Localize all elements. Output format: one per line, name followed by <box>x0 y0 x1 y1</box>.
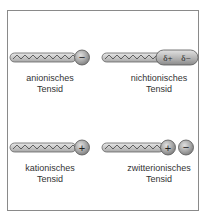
svg-text:δ+: δ+ <box>163 53 172 63</box>
label-cationic: kationisches Tensid <box>2 163 98 184</box>
svg-text:δ−: δ− <box>181 53 190 63</box>
cationic-surfactant-molecule: + <box>0 90 100 170</box>
anionic-surfactant-molecule: − <box>0 0 100 80</box>
zwitterionic-surfactant-molecule: + − <box>97 90 207 170</box>
label-line: Tensid <box>2 174 98 185</box>
label-line: anionisches <box>2 73 98 84</box>
label-line: Tensid <box>111 174 207 185</box>
label-line: nichtionisches <box>111 73 207 84</box>
label-line: kationisches <box>2 163 98 174</box>
label-zwitterionic: zwitterionisches Tensid <box>111 163 207 184</box>
nonionic-polar-head-icon <box>156 50 198 65</box>
panel-cationic: + kationisches Tensid <box>0 90 100 195</box>
svg-text:+: + <box>79 142 85 154</box>
panel-zwitterionic: + − zwitterionisches Tensid <box>97 90 197 195</box>
svg-text:−: − <box>79 51 85 63</box>
svg-text:+: + <box>165 142 171 154</box>
svg-text:−: − <box>183 141 189 153</box>
label-line: zwitterionisches <box>111 163 207 174</box>
nonionic-surfactant-molecule: δ+ δ− <box>97 0 207 80</box>
